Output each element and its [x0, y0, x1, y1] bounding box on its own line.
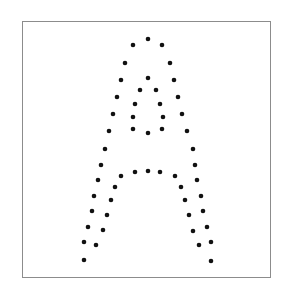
data-points	[82, 37, 214, 264]
data-point	[172, 78, 177, 83]
data-point	[168, 61, 173, 66]
data-point	[138, 88, 143, 93]
data-point	[199, 194, 204, 199]
data-point	[209, 240, 214, 245]
data-point	[96, 178, 101, 183]
data-point	[160, 43, 165, 48]
data-point	[131, 127, 136, 132]
data-point	[201, 209, 206, 214]
data-point	[113, 185, 118, 190]
data-point	[154, 88, 159, 93]
data-point	[107, 129, 112, 134]
data-point	[187, 213, 192, 218]
data-point	[160, 127, 165, 132]
data-point	[82, 258, 87, 263]
data-point	[82, 240, 87, 245]
data-point	[173, 174, 178, 179]
data-point	[146, 169, 151, 174]
data-point	[180, 112, 185, 117]
data-point	[146, 76, 151, 81]
data-point	[197, 243, 202, 248]
data-point	[90, 209, 95, 214]
data-point	[101, 228, 106, 233]
data-point	[119, 174, 124, 179]
data-point	[131, 43, 136, 48]
data-point	[131, 115, 136, 120]
data-point	[99, 163, 104, 168]
data-point	[209, 259, 214, 264]
data-point	[193, 163, 198, 168]
data-point	[185, 129, 190, 134]
data-point	[133, 170, 138, 175]
data-point	[105, 213, 110, 218]
data-point	[176, 95, 181, 100]
data-point	[191, 147, 196, 152]
data-point	[123, 61, 128, 66]
data-point	[161, 115, 166, 120]
data-point	[115, 95, 120, 100]
data-point	[146, 37, 151, 42]
data-point	[92, 194, 97, 199]
data-point	[183, 198, 188, 203]
data-point	[195, 178, 200, 183]
data-point	[86, 225, 91, 230]
data-point	[158, 170, 163, 175]
data-point	[103, 147, 108, 152]
data-point	[109, 198, 114, 203]
data-point	[94, 243, 99, 248]
data-point	[191, 229, 196, 234]
data-point	[111, 112, 116, 117]
data-point	[158, 102, 163, 107]
scatter-plot	[0, 0, 288, 294]
data-point	[146, 131, 151, 136]
data-point	[179, 185, 184, 190]
data-point	[133, 102, 138, 107]
data-point	[119, 78, 124, 83]
data-point	[205, 225, 210, 230]
